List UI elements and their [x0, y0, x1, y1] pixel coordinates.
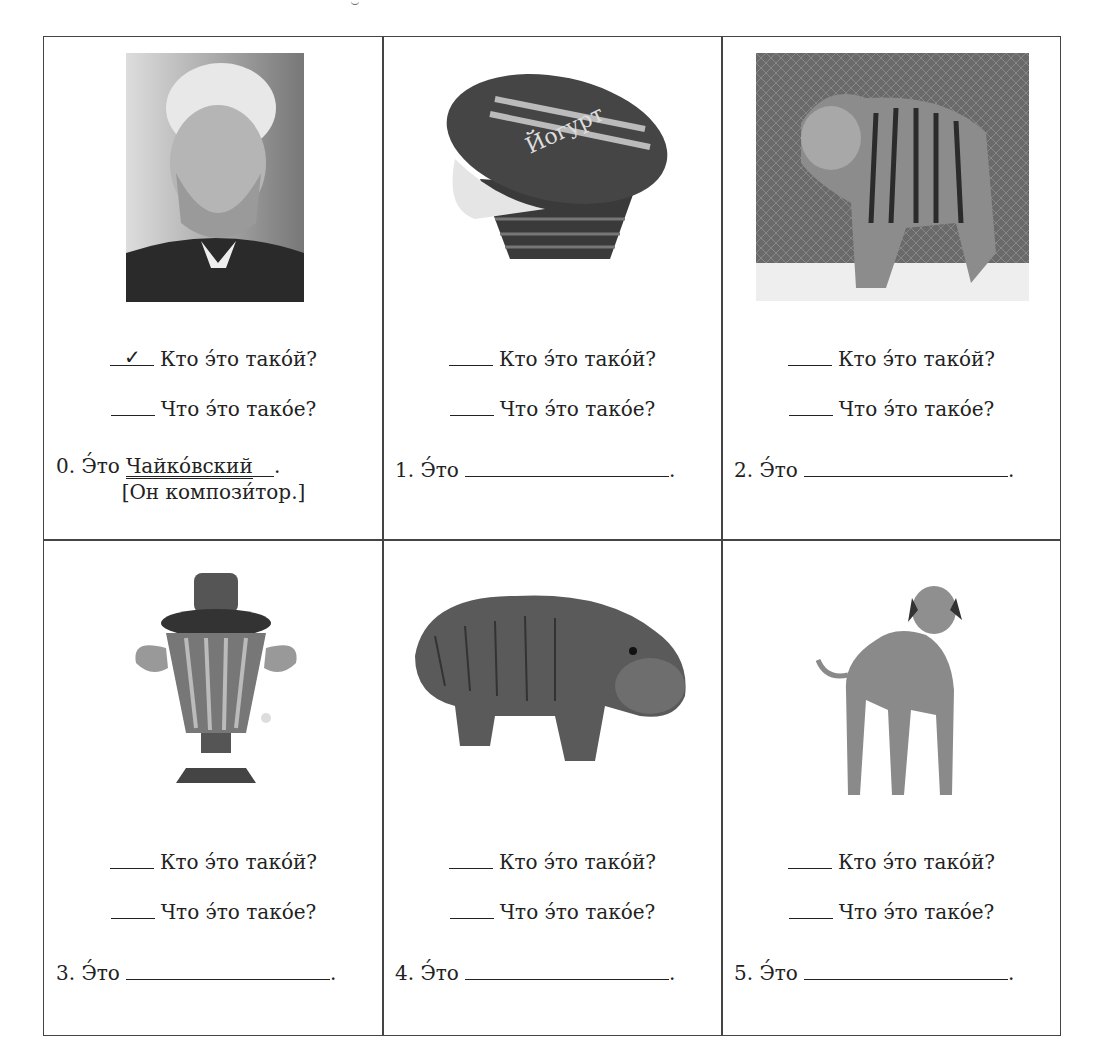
- answer-prefix: Э́то: [420, 458, 458, 482]
- question-what-label: Что э́то тако́е?: [839, 900, 995, 924]
- answer-line: 2. Э́то.: [734, 454, 1014, 482]
- period: .: [274, 454, 280, 478]
- question-who-label: Кто э́то тако́й?: [499, 850, 656, 874]
- question-what: Что э́то тако́е?: [383, 900, 722, 924]
- answer-note: [Он компози́тор.]: [44, 480, 383, 504]
- question-who: Кто э́то тако́й?: [722, 850, 1061, 874]
- exercise-number: 2.: [734, 458, 753, 482]
- answer-line: 3. Э́то.: [56, 957, 336, 985]
- answer-blank-what[interactable]: [111, 397, 155, 416]
- exercise-number: 4.: [395, 961, 414, 985]
- samovar-image: [126, 568, 306, 798]
- answer-line: 4. Э́то.: [395, 957, 675, 985]
- period: .: [330, 961, 336, 985]
- question-who: Кто э́то тако́й?: [722, 347, 1061, 371]
- answer-blank-who[interactable]: [788, 347, 832, 366]
- tiger-image: [756, 53, 1029, 301]
- period: .: [669, 961, 675, 985]
- answer-blank-what[interactable]: [450, 397, 494, 416]
- answer-prefix: Э́то: [420, 961, 458, 985]
- exercise-cell-3: Кто э́то тако́й? Что э́то тако́е? 3. Э́т…: [44, 540, 383, 1037]
- question-what-label: Что э́то тако́е?: [839, 397, 995, 421]
- question-what: Что э́то тако́е?: [44, 397, 383, 421]
- question-what: Что э́то тако́е?: [722, 900, 1061, 924]
- question-what: Что э́то тако́е?: [722, 397, 1061, 421]
- tchaikovsky-portrait-image: [126, 53, 304, 302]
- exercise-cell-5: Кто э́то тако́й? Что э́то тако́е? 5. Э́т…: [722, 540, 1061, 1037]
- question-what-label: Что э́то тако́е?: [161, 900, 317, 924]
- answer-line: 5. Э́то.: [734, 957, 1014, 985]
- question-who-label: Кто э́то тако́й?: [838, 850, 995, 874]
- answer-field[interactable]: [126, 957, 330, 980]
- question-who-label: Кто э́то тако́й?: [160, 850, 317, 874]
- hippopotamus-image: [405, 576, 695, 766]
- question-what-label: Что э́то тако́е?: [500, 397, 656, 421]
- answer-blank-who[interactable]: ✓: [110, 347, 154, 366]
- question-what: Что э́то тако́е?: [44, 900, 383, 924]
- question-who: Кто э́то тако́й?: [383, 347, 722, 371]
- question-who-label: Кто э́то тако́й?: [499, 347, 656, 371]
- answer-line: 0. Э́тоЧайко́вский.: [56, 454, 280, 478]
- answer-blank-what[interactable]: [789, 900, 833, 919]
- answer-blank-who[interactable]: [110, 850, 154, 869]
- yogurt-image: Йогурт: [435, 59, 670, 264]
- exercise-cell-1: Йогурт Кто э́то тако́й? Что э́то тако́е?…: [383, 37, 722, 540]
- period: .: [1008, 458, 1014, 482]
- question-who: Кто э́то тако́й?: [44, 850, 383, 874]
- exercise-number: 1.: [395, 458, 414, 482]
- worksheet-grid: ✓Кто э́то тако́й? Что э́то тако́е? 0. Э́…: [43, 36, 1061, 1036]
- exercise-cell-2: Кто э́то тако́й? Что э́то тако́е? 2. Э́т…: [722, 37, 1061, 540]
- exercise-number: 5.: [734, 961, 753, 985]
- check-mark-icon: ✓: [124, 347, 141, 367]
- answer-field[interactable]: [804, 957, 1008, 980]
- answer-field[interactable]: Чайко́вский: [126, 454, 274, 477]
- exercise-cell-4: Кто э́то тако́й? Что э́то тако́е? 4. Э́т…: [383, 540, 722, 1037]
- answer-blank-what[interactable]: [450, 900, 494, 919]
- exercise-number: 0.: [56, 454, 75, 478]
- answer-blank-who[interactable]: [449, 347, 493, 366]
- period: .: [669, 458, 675, 482]
- answer-blank-who[interactable]: [449, 850, 493, 869]
- stray-mark: [351, 0, 359, 5]
- answer-line: 1. Э́то.: [395, 454, 675, 482]
- answer-field[interactable]: [804, 454, 1008, 477]
- question-who-label: Кто э́то тако́й?: [838, 347, 995, 371]
- answer-prefix: Э́то: [81, 454, 119, 478]
- answer-field[interactable]: [465, 957, 669, 980]
- answer-blank-who[interactable]: [788, 850, 832, 869]
- dog-image: [816, 580, 966, 805]
- answer-prefix: Э́то: [759, 961, 797, 985]
- question-what-label: Что э́то тако́е?: [500, 900, 656, 924]
- answer-blank-what[interactable]: [789, 397, 833, 416]
- question-who-label: Кто э́то тако́й?: [160, 347, 317, 371]
- answer-prefix: Э́то: [759, 458, 797, 482]
- period: .: [1008, 961, 1014, 985]
- answer-blank-what[interactable]: [111, 900, 155, 919]
- question-what-label: Что э́то тако́е?: [161, 397, 317, 421]
- question-who: ✓Кто э́то тако́й?: [44, 347, 383, 371]
- question-who: Кто э́то тако́й?: [383, 850, 722, 874]
- answer-field[interactable]: [465, 454, 669, 477]
- exercise-cell-0: ✓Кто э́то тако́й? Что э́то тако́е? 0. Э́…: [44, 37, 383, 540]
- question-what: Что э́то тако́е?: [383, 397, 722, 421]
- exercise-number: 3.: [56, 961, 75, 985]
- answer-prefix: Э́то: [81, 961, 119, 985]
